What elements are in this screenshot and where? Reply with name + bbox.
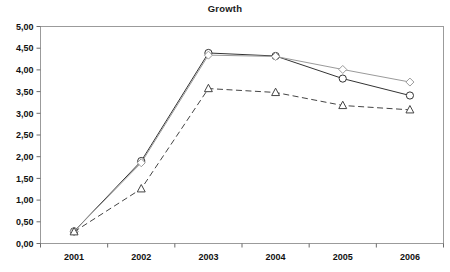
y-axis-tick-label: 2,00 <box>16 152 34 162</box>
series-line-circle <box>74 53 410 231</box>
chart-container: Growth 0,000,501,001,502,002,503,003,504… <box>0 0 450 272</box>
x-axis-tick-label: 2003 <box>198 252 218 262</box>
data-point-marker-diamond <box>339 65 347 73</box>
x-axis-tick-label: 2002 <box>131 252 151 262</box>
x-axis-tick-label: 2001 <box>64 252 84 262</box>
data-point-marker-triangle <box>204 84 212 91</box>
y-axis-tick-label: 2,50 <box>16 130 34 140</box>
data-point-marker-circle <box>406 92 413 99</box>
series-line-diamond <box>74 55 410 231</box>
data-series-diamond <box>70 51 414 235</box>
y-axis-tick-label: 3,50 <box>16 87 34 97</box>
data-point-marker-triangle <box>272 88 280 95</box>
x-axis-tick-label: 2005 <box>333 252 353 262</box>
series-line-triangle <box>74 89 410 232</box>
y-axis-tick-label: 5,00 <box>16 22 34 32</box>
y-axis-tick-label: 0,50 <box>16 217 34 227</box>
plot-area-border <box>41 27 444 244</box>
y-axis-tick-label: 1,00 <box>16 195 34 205</box>
data-series-circle <box>70 49 413 235</box>
data-point-marker-triangle <box>137 185 145 192</box>
y-axis-tick-label: 3,00 <box>16 109 34 119</box>
data-series-group <box>70 49 414 235</box>
y-axis-tick-label: 4,00 <box>16 65 34 75</box>
x-axis-tick-label: 2006 <box>400 252 420 262</box>
data-series-triangle <box>70 84 414 235</box>
y-axis-tick-label: 1,50 <box>16 174 34 184</box>
plot-frame <box>41 27 444 244</box>
x-axis-ticks: 200120022003200420052006 <box>41 244 444 262</box>
y-axis-tick-label: 4,50 <box>16 43 34 53</box>
line-chart-plot: 0,000,501,001,502,002,503,003,504,004,50… <box>0 0 450 272</box>
data-point-marker-diamond <box>406 78 414 86</box>
x-axis-tick-label: 2004 <box>266 252 286 262</box>
y-axis-ticks: 0,000,501,001,502,002,503,003,504,004,50… <box>16 22 41 249</box>
y-axis-tick-label: 0,00 <box>16 239 34 249</box>
data-point-marker-circle <box>339 75 346 82</box>
